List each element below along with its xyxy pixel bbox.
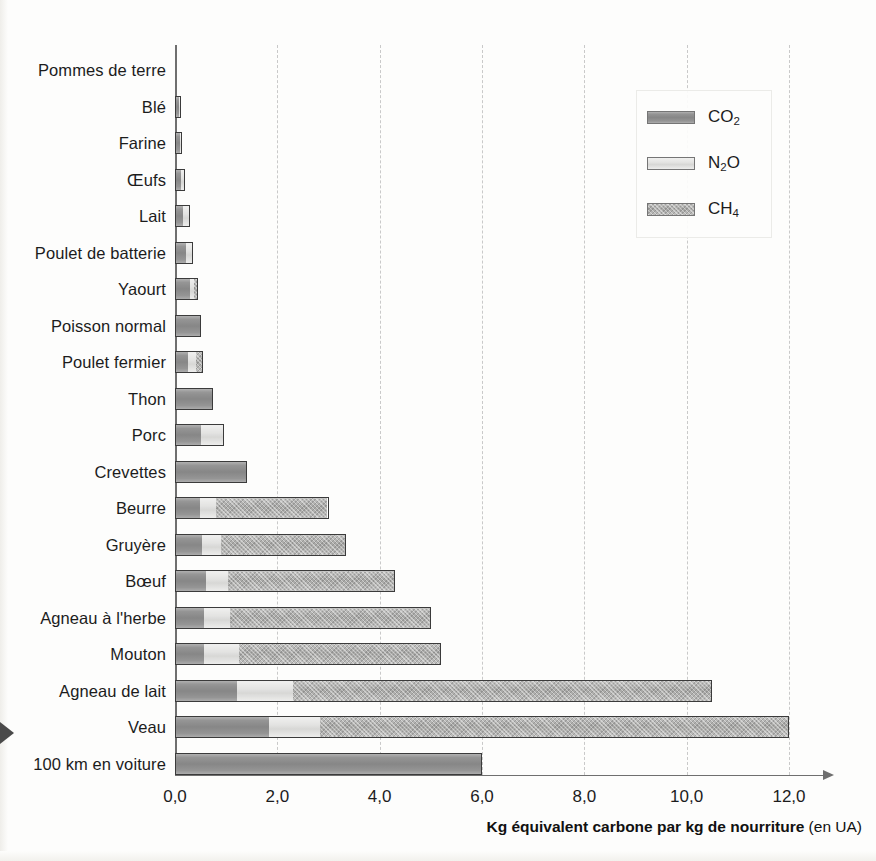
carbon-footprint-chart: Pommes de terreBléFarineŒufsLaitPoulet d… (0, 0, 876, 861)
stacked-bar (175, 315, 201, 337)
bar-segment-n2o (237, 681, 293, 701)
category-label: Gruyère (106, 535, 166, 554)
category-label: Porc (132, 426, 166, 445)
stacked-bar (175, 607, 431, 629)
bar-row: Beurre (175, 490, 789, 526)
stacked-bar (175, 497, 329, 519)
bar-row: Veau (175, 709, 789, 745)
bar-row: Agneau de lait (175, 673, 789, 709)
bar-segment-co2 (176, 717, 269, 737)
bar-segment-ch4 (293, 681, 711, 701)
bar-row: Porc (175, 417, 789, 453)
stacked-bar (175, 643, 441, 665)
bar-segment-co2 (176, 316, 200, 336)
stacked-bar (175, 96, 181, 118)
legend-item-N2O[interactable]: N2O (647, 153, 740, 173)
x-tick-label: 6,0 (470, 787, 494, 807)
bar-segment-co2 (176, 389, 212, 409)
bar-segment-co2 (176, 571, 206, 591)
stacked-bar (175, 205, 190, 227)
category-label: Mouton (110, 645, 166, 664)
category-label: Agneau de lait (59, 681, 166, 700)
category-label: Poisson normal (51, 316, 166, 335)
x-tick-label: 2,0 (266, 787, 290, 807)
bar-segment-ch4 (196, 352, 202, 372)
bar-segment-co2 (176, 535, 202, 555)
bar-row: Bœuf (175, 563, 789, 599)
bar-segment-co2 (176, 425, 201, 445)
stacked-bar (175, 351, 203, 373)
bar-row: Pommes de terre (175, 52, 789, 88)
stacked-bar (175, 278, 198, 300)
x-tick-label: 4,0 (368, 787, 392, 807)
stacked-bar (175, 132, 182, 154)
category-label: Pommes de terre (38, 61, 166, 80)
bar-segment-ch4 (216, 498, 327, 518)
bar-segment-co2 (176, 754, 481, 774)
legend-swatch-N2O (647, 157, 695, 170)
stacked-bar (175, 680, 712, 702)
bar-segment-n2o (206, 571, 227, 591)
legend-swatch-CH4 (647, 203, 695, 216)
category-label: Thon (128, 389, 166, 408)
bar-segment-ch4 (194, 279, 197, 299)
category-label: Bœuf (125, 572, 166, 591)
bar-segment-n2o (202, 535, 221, 555)
category-label: Yaourt (118, 280, 166, 299)
stacked-bar (175, 424, 224, 446)
bar-segment-n2o (183, 206, 189, 226)
category-label: 100 km en voiture (33, 754, 166, 773)
bar-segment-n2o (181, 170, 184, 190)
category-label: Poulet fermier (62, 353, 166, 372)
category-label: Lait (139, 207, 166, 226)
bar-segment-co2 (176, 462, 246, 482)
category-label: Œufs (127, 170, 166, 189)
bar-segment-co2 (176, 243, 186, 263)
bar-segment-co2 (176, 681, 237, 701)
bar-row: Crevettes (175, 454, 789, 490)
bar-segment-co2 (176, 608, 204, 628)
bar-segment-n2o (201, 425, 223, 445)
bar-segment-co2 (176, 352, 188, 372)
bar-row: Gruyère (175, 527, 789, 563)
legend-label-CH4: CH4 (708, 199, 739, 219)
gridline (789, 45, 790, 775)
bar-segment-n2o (179, 97, 180, 117)
bar-segment-ch4 (230, 608, 430, 628)
legend-label-CO2: CO2 (708, 107, 740, 127)
stacked-bar (175, 534, 346, 556)
bar-segment-n2o (180, 133, 181, 153)
page-marker-arrow-icon (0, 722, 14, 744)
x-tick-label: 0,0 (163, 787, 187, 807)
page-edge-bottom (0, 851, 876, 861)
bar-segment-ch4 (320, 717, 788, 737)
bar-segment-ch4 (239, 644, 440, 664)
x-axis-arrow-icon (823, 770, 834, 780)
x-tick-label: 12,0 (772, 787, 805, 807)
legend-item-CO2[interactable]: CO2 (647, 107, 740, 127)
legend: CO2N2OCH4 (636, 90, 772, 238)
category-label: Farine (119, 134, 166, 153)
category-label: Veau (128, 718, 166, 737)
x-axis-title-unit: (en UA) (809, 818, 862, 835)
legend-item-CH4[interactable]: CH4 (647, 199, 739, 219)
bar-row: Thon (175, 381, 789, 417)
category-label: Agneau à l'herbe (40, 608, 166, 627)
x-tick-label: 10,0 (670, 787, 703, 807)
stacked-bar (175, 716, 789, 738)
x-tick-label: 8,0 (573, 787, 597, 807)
stacked-bar (175, 753, 482, 775)
bar-row: Poulet fermier (175, 344, 789, 380)
bar-segment-co2 (176, 498, 200, 518)
category-label: Crevettes (94, 462, 166, 481)
bar-segment-n2o (186, 243, 192, 263)
bar-segment-co2 (176, 644, 204, 664)
category-label: Beurre (116, 499, 166, 518)
bar-row: Yaourt (175, 271, 789, 307)
bar-segment-co2 (176, 206, 183, 226)
bar-segment-n2o (200, 498, 216, 518)
bar-row: Agneau à l'herbe (175, 600, 789, 636)
bar-segment-n2o (204, 608, 230, 628)
legend-swatch-CO2 (647, 111, 695, 124)
bar-segment-ch4 (228, 571, 394, 591)
